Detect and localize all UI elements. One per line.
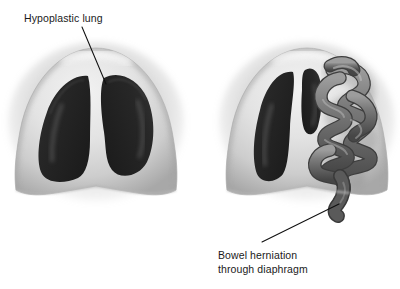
illustration-canvas: Hypoplastic lung Bowel herniation throug… — [0, 0, 400, 289]
panel-left-thorax-normal — [8, 42, 184, 202]
annotation-bowel-herniation-label-line1: Bowel herniation — [218, 249, 297, 261]
medical-illustration: Hypoplastic lung Bowel herniation throug… — [0, 0, 400, 289]
annotation-bowel-herniation-label-line2: through diaphragm — [218, 263, 308, 275]
annotation-hypoplastic-lung-label: Hypoplastic lung — [24, 12, 103, 24]
leader-line-bowel-herniation — [262, 204, 339, 242]
annotation-bowel-herniation: Bowel herniation through diaphragm — [218, 204, 339, 275]
panel-right-thorax-hernia — [219, 42, 395, 216]
